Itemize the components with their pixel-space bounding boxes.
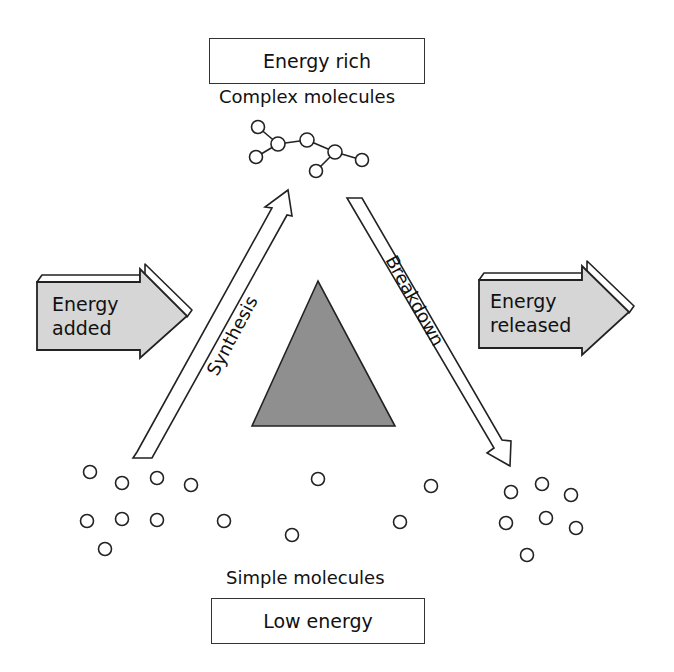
energy-rich-box: Energy rich bbox=[209, 38, 425, 84]
energy-rich-label: Energy rich bbox=[263, 50, 371, 72]
energy-added-line1: Energy bbox=[52, 292, 119, 316]
low-energy-box: Low energy bbox=[211, 598, 425, 644]
complex-molecules-caption: Complex molecules bbox=[219, 86, 395, 107]
energy-added-text: Energy added bbox=[52, 292, 119, 340]
low-energy-label: Low energy bbox=[263, 610, 373, 632]
energy-added-line2: added bbox=[52, 316, 119, 340]
simple-molecules-caption: Simple molecules bbox=[226, 567, 385, 588]
energy-released-line1: Energy bbox=[490, 289, 571, 313]
simple-molecules bbox=[81, 466, 583, 562]
energy-released-text: Energy released bbox=[490, 289, 571, 337]
center-triangle bbox=[252, 281, 395, 426]
energy-released-line2: released bbox=[490, 313, 571, 337]
complex-molecule bbox=[250, 121, 369, 178]
